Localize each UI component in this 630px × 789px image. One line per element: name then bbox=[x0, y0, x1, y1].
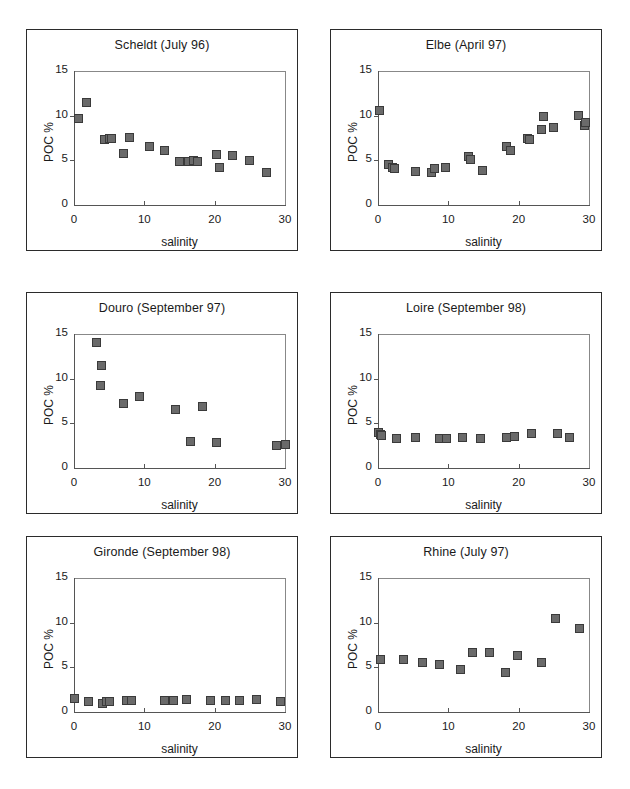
y-tick bbox=[70, 379, 75, 380]
y-axis-line bbox=[74, 334, 75, 469]
x-tick-label: 30 bbox=[270, 476, 300, 488]
data-point bbox=[245, 156, 254, 165]
data-point bbox=[506, 146, 515, 155]
data-point bbox=[281, 440, 290, 449]
y-axis-label: POC % bbox=[346, 122, 360, 162]
y-tick-label: 10 bbox=[44, 371, 68, 383]
x-axis-line bbox=[378, 205, 590, 206]
data-point bbox=[70, 694, 79, 703]
data-point bbox=[537, 125, 546, 134]
data-point bbox=[182, 695, 191, 704]
x-tick bbox=[448, 201, 449, 206]
data-point bbox=[198, 402, 207, 411]
x-tick bbox=[215, 464, 216, 469]
data-point bbox=[565, 433, 574, 442]
data-point bbox=[539, 112, 548, 121]
y-tick-label: 10 bbox=[348, 108, 372, 120]
y-tick-label: 15 bbox=[44, 326, 68, 338]
x-axis-line bbox=[378, 468, 590, 469]
data-point bbox=[458, 433, 467, 442]
y-axis-line bbox=[378, 71, 379, 206]
data-point bbox=[96, 381, 105, 390]
data-point bbox=[377, 431, 386, 440]
data-point bbox=[476, 434, 485, 443]
x-tick bbox=[519, 201, 520, 206]
data-point bbox=[262, 168, 271, 177]
data-point bbox=[92, 338, 101, 347]
data-point bbox=[513, 651, 522, 660]
data-point bbox=[107, 134, 116, 143]
y-tick-label: 0 bbox=[348, 460, 372, 472]
x-axis-line bbox=[74, 468, 286, 469]
data-point bbox=[478, 166, 487, 175]
x-tick-label: 10 bbox=[129, 213, 159, 225]
chart-title-loire: Loire (September 98) bbox=[331, 301, 601, 315]
chart-panel-rhine: Rhine (July 97)0510150102030POC %salinit… bbox=[330, 536, 602, 758]
data-point bbox=[252, 695, 261, 704]
data-point bbox=[418, 658, 427, 667]
chart-title-scheldt: Scheldt (July 96) bbox=[27, 38, 297, 52]
chart-title-gironde: Gironde (September 98) bbox=[27, 545, 297, 559]
x-tick-label: 10 bbox=[129, 720, 159, 732]
plot-frame-right bbox=[285, 71, 286, 205]
data-point bbox=[160, 146, 169, 155]
data-point bbox=[466, 155, 475, 164]
y-axis-label: POC % bbox=[346, 629, 360, 669]
y-tick-label: 15 bbox=[348, 570, 372, 582]
x-tick-label: 10 bbox=[433, 720, 463, 732]
y-tick bbox=[70, 423, 75, 424]
x-tick-label: 0 bbox=[59, 720, 89, 732]
plot-frame-top bbox=[378, 334, 589, 335]
x-tick bbox=[215, 201, 216, 206]
data-point bbox=[82, 98, 91, 107]
x-tick-label: 20 bbox=[200, 720, 230, 732]
x-tick-label: 20 bbox=[504, 213, 534, 225]
y-axis-label: POC % bbox=[42, 385, 56, 425]
data-point bbox=[551, 614, 560, 623]
y-tick-label: 15 bbox=[44, 570, 68, 582]
chart-panel-loire: Loire (September 98)0510150102030POC %sa… bbox=[330, 292, 602, 514]
chart-panel-gironde: Gironde (September 98)0510150102030POC %… bbox=[26, 536, 298, 758]
x-tick-label: 20 bbox=[504, 720, 534, 732]
data-point bbox=[435, 660, 444, 669]
plot-frame-right bbox=[589, 334, 590, 468]
figure-panel-grid: Scheldt (July 96)0510150102030POC %salin… bbox=[0, 0, 630, 789]
data-point bbox=[160, 696, 169, 705]
y-tick bbox=[374, 423, 379, 424]
y-tick-label: 10 bbox=[44, 108, 68, 120]
data-point bbox=[171, 405, 180, 414]
data-point bbox=[105, 697, 114, 706]
x-axis-line bbox=[378, 712, 590, 713]
data-point bbox=[537, 658, 546, 667]
data-point bbox=[193, 157, 202, 166]
x-tick-label: 20 bbox=[504, 476, 534, 488]
x-axis-label: salinity bbox=[74, 235, 285, 249]
y-tick-label: 15 bbox=[348, 63, 372, 75]
data-point bbox=[399, 655, 408, 664]
data-point bbox=[221, 696, 230, 705]
data-point bbox=[145, 142, 154, 151]
x-tick-label: 30 bbox=[574, 213, 604, 225]
y-axis-label: POC % bbox=[42, 122, 56, 162]
data-point bbox=[212, 438, 221, 447]
plot-area-elbe: 0510150102030 bbox=[378, 71, 589, 205]
x-tick-label: 0 bbox=[363, 720, 393, 732]
data-point bbox=[441, 163, 450, 172]
data-point bbox=[581, 118, 590, 127]
chart-panel-douro: Douro (September 97)0510150102030POC %sa… bbox=[26, 292, 298, 514]
plot-frame-top bbox=[74, 334, 285, 335]
data-point bbox=[392, 434, 401, 443]
y-tick-label: 0 bbox=[44, 460, 68, 472]
data-point bbox=[411, 433, 420, 442]
plot-frame-right bbox=[285, 578, 286, 712]
y-tick-label: 10 bbox=[348, 371, 372, 383]
x-axis-label: salinity bbox=[74, 742, 285, 756]
data-point bbox=[119, 149, 128, 158]
x-tick-label: 0 bbox=[363, 213, 393, 225]
plot-area-scheldt: 0510150102030 bbox=[74, 71, 285, 205]
x-tick bbox=[144, 201, 145, 206]
y-tick bbox=[70, 623, 75, 624]
data-point bbox=[456, 665, 465, 674]
data-point bbox=[510, 432, 519, 441]
data-point bbox=[228, 151, 237, 160]
